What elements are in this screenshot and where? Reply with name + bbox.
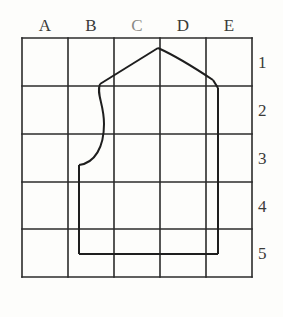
row-label-4: 4 — [258, 198, 278, 215]
pattern-piece-outline — [79, 48, 218, 254]
left-armhole-curve — [79, 84, 104, 165]
right-shoulder-curve — [158, 48, 213, 80]
column-label-d: D — [160, 17, 206, 34]
column-label-e: E — [206, 17, 252, 34]
left-shoulder-line — [100, 48, 158, 84]
pattern-diagram-svg — [0, 0, 283, 317]
row-label-3: 3 — [258, 150, 278, 167]
column-label-c: C — [114, 17, 160, 34]
row-label-2: 2 — [258, 102, 278, 119]
column-label-a: A — [22, 17, 68, 34]
column-label-b: B — [68, 17, 114, 34]
pattern-diagram-page: A B C D E 1 2 3 4 5 — [0, 0, 283, 317]
row-label-1: 1 — [258, 54, 278, 71]
row-label-5: 5 — [258, 245, 278, 262]
